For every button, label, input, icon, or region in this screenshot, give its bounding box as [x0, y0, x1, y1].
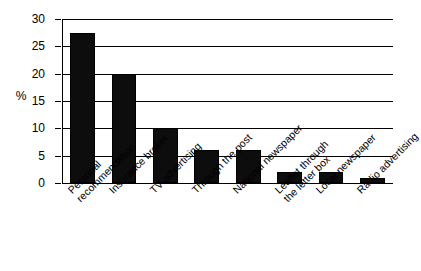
y-axis-tick-label: 5 [17, 150, 45, 162]
y-axis-tick-mark [55, 74, 61, 75]
y-axis-tick-label: 0 [17, 177, 45, 189]
y-axis-tick-mark [55, 183, 61, 184]
y-axis-tick-label: 30 [17, 13, 45, 25]
y-axis-tick-mark [55, 101, 61, 102]
y-axis-tick-mark [55, 46, 61, 47]
gridline [62, 46, 393, 47]
y-axis-tick-label: 10 [17, 122, 45, 134]
x-axis-line [62, 183, 393, 184]
y-axis-line [62, 19, 63, 184]
y-axis-tick-label: 15 [17, 95, 45, 107]
y-axis-tick-label: 25 [17, 40, 45, 52]
y-axis-tick-mark [55, 128, 61, 129]
y-axis-tick-label: 20 [17, 68, 45, 80]
gridline [62, 19, 393, 20]
y-axis-tick-mark [55, 19, 61, 20]
y-axis-tick-mark [55, 156, 61, 157]
